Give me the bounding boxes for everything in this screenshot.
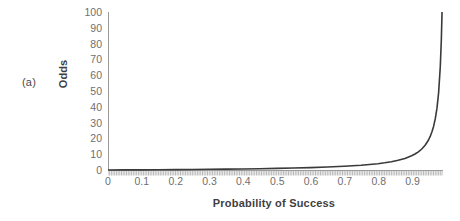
plot-area [108,12,440,170]
x-tick-label: 0.3 [193,175,227,187]
x-tick-label: 0.2 [159,175,193,187]
y-tick-label: 70 [76,54,102,64]
figure-panel-a: (a) Odds 0 10 20 30 40 50 60 70 80 90 10… [0,0,460,221]
y-tick-label: 50 [76,86,102,96]
x-tick-label: 0 [91,175,125,187]
y-tick-label: 10 [76,149,102,159]
y-tick-label: 60 [76,70,102,80]
y-tick-label: 100 [76,7,102,17]
y-tick-label: 80 [76,39,102,49]
y-axis-tick-labels: 0 10 20 30 40 50 60 70 80 90 100 [76,12,102,170]
x-tick-label: 0.9 [396,175,430,187]
y-tick-label: 20 [76,133,102,143]
y-tick-label: 30 [76,118,102,128]
x-tick-label: 0.4 [226,175,260,187]
y-tick-label: 40 [76,102,102,112]
chart-svg [108,12,448,178]
x-tick-label: 0.8 [362,175,396,187]
y-axis-title: Odds [57,4,69,144]
x-axis-tick-labels: 0 0.1 0.2 0.3 0.4 0.5 0.6 0.7 0.8 0.9 [108,175,448,191]
x-tick-label: 0.5 [260,175,294,187]
x-tick-label: 0.1 [125,175,159,187]
odds-curve [108,12,442,170]
x-axis-title: Probability of Success [108,197,440,209]
x-tick-label: 0.6 [294,175,328,187]
panel-label: (a) [22,76,36,88]
x-tick-label: 0.7 [328,175,362,187]
y-tick-label: 90 [76,23,102,33]
y-tick-label: 0 [76,165,102,175]
